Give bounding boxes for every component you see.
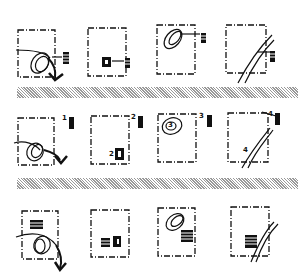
frame-r1c2 (88, 28, 126, 76)
frame-r3c4 (231, 207, 269, 256)
inner-label-3: 3 (168, 121, 173, 129)
inner-label-2: 2 (109, 150, 114, 158)
label-4: 4 (268, 110, 273, 118)
frame-r3c2 (91, 210, 129, 257)
panels-diagram (0, 0, 300, 277)
label-3: 3 (199, 112, 204, 120)
frame-r2c3 (158, 114, 196, 162)
label-1: 1 (62, 114, 67, 122)
inner-label-4: 4 (243, 146, 248, 154)
label-2: 2 (131, 113, 136, 121)
